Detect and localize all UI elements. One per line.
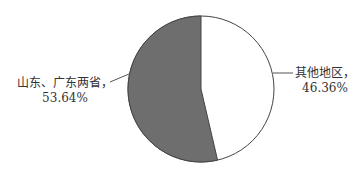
- label-name: 其他地区，: [290, 66, 360, 81]
- label-shandong-guangdong: 山东、广东两省， 53.64%: [10, 76, 120, 106]
- label-others: 其他地区， 46.36%: [290, 66, 360, 96]
- label-name: 山东、广东两省，: [10, 76, 120, 91]
- label-value: 46.36%: [290, 81, 360, 96]
- label-value: 53.64%: [10, 91, 120, 106]
